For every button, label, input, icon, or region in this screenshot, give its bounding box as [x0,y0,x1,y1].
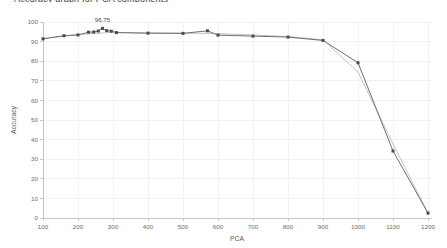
svg-text:400: 400 [143,223,154,230]
x-axis-ticks: 100200300400500600700800900100011001200 [38,218,436,230]
data-point-markers [42,27,430,215]
svg-text:1100: 1100 [386,223,400,230]
svg-text:96.75: 96.75 [95,16,111,23]
svg-text:100: 100 [38,223,49,230]
svg-text:800: 800 [283,223,294,230]
svg-text:50: 50 [31,116,38,123]
svg-text:300: 300 [108,223,119,230]
svg-text:200: 200 [73,223,84,230]
svg-text:30: 30 [31,155,38,162]
svg-text:70: 70 [31,77,38,84]
svg-text:20: 20 [31,175,38,182]
svg-text:10: 10 [31,195,38,202]
line-chart-plot: 0102030405060708090100 10020030040050060… [0,0,447,248]
svg-text:600: 600 [213,223,224,230]
svg-text:700: 700 [248,223,259,230]
svg-text:80: 80 [31,57,38,64]
y-axis-title: Accuracy [10,105,18,134]
y-axis-ticks: 0102030405060708090100 [28,18,43,221]
trend-line-series [43,32,428,213]
svg-text:500: 500 [178,223,189,230]
peak-annotation: 96.75 [95,16,111,23]
svg-text:1200: 1200 [421,223,435,230]
svg-text:1000: 1000 [351,223,365,230]
horizontal-gridlines [43,22,432,218]
x-axis-title: PCA [230,235,244,242]
svg-text:900: 900 [318,223,329,230]
svg-text:60: 60 [31,97,38,104]
accuracy-line-series [43,28,428,213]
svg-text:40: 40 [31,136,38,143]
svg-text:90: 90 [31,38,38,45]
svg-text:0: 0 [35,214,39,221]
svg-text:100: 100 [28,18,39,25]
chart-container: Accuracy graph for PCA components 010203… [0,0,447,248]
